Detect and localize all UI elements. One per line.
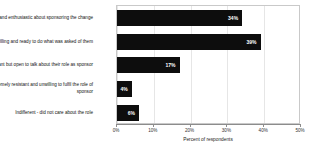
- bar-row: Willing and ready to do what was asked o…: [117, 30, 299, 54]
- x-tick-label: 0%: [113, 128, 120, 133]
- x-tick-label: 30%: [222, 128, 231, 133]
- x-tick-label: 50%: [295, 128, 304, 133]
- x-tick: [226, 124, 227, 127]
- x-tick-label: 20%: [185, 128, 194, 133]
- bar-row: Proactive and enthusiastic about sponsor…: [117, 6, 299, 30]
- category-label: Extremely resistant and unwilling to ful…: [0, 82, 93, 96]
- bar-value-label: 34%: [228, 15, 238, 20]
- bar-row: Indifferent - did not care about the rol…: [117, 101, 299, 125]
- bar-row: Reluctant but open to talk about their r…: [117, 54, 299, 78]
- x-tick: [153, 124, 154, 127]
- bar-row: Extremely resistant and unwilling to ful…: [117, 77, 299, 101]
- x-tick-label: 40%: [259, 128, 268, 133]
- bar-chart: Proactive and enthusiastic about sponsor…: [0, 0, 318, 152]
- bar-value-label: 6%: [128, 111, 135, 116]
- bar-value-label: 17%: [166, 63, 176, 68]
- category-label: Reluctant but open to talk about their r…: [0, 62, 93, 69]
- category-label: Willing and ready to do what was asked o…: [0, 38, 93, 45]
- category-label: Indifferent - did not care about the rol…: [0, 110, 93, 117]
- bar: 39%: [117, 34, 261, 50]
- plot-area: Proactive and enthusiastic about sponsor…: [116, 5, 300, 124]
- category-label: Proactive and enthusiastic about sponsor…: [0, 14, 93, 21]
- x-tick-label: 10%: [148, 128, 157, 133]
- bar: 4%: [117, 81, 132, 97]
- bar-value-label: 39%: [247, 39, 257, 44]
- x-tick: [116, 124, 117, 127]
- x-axis: 0% 10% 20% 30% 40% 50%: [116, 124, 300, 125]
- x-tick: [300, 124, 301, 127]
- x-tick: [190, 124, 191, 127]
- bar: 34%: [117, 10, 242, 26]
- bar: 17%: [117, 57, 180, 73]
- bar: 6%: [117, 105, 139, 121]
- x-tick: [263, 124, 264, 127]
- x-axis-title: Percent of respondents: [116, 137, 300, 142]
- bar-value-label: 4%: [120, 87, 127, 92]
